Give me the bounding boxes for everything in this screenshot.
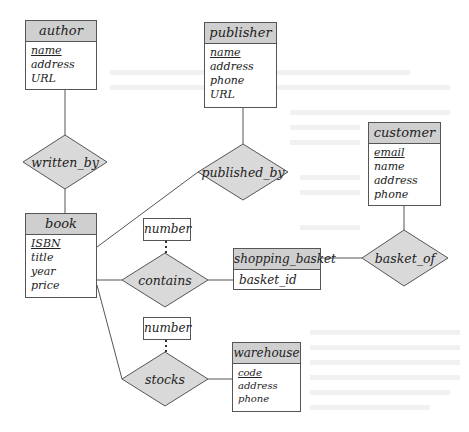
attribute-book-title: title bbox=[31, 251, 92, 265]
attribute-publisher-phone: phone bbox=[210, 74, 272, 88]
entity-customer: customer email name address phone bbox=[368, 122, 441, 206]
entity-book: book ISBN title year price bbox=[25, 213, 97, 298]
attribute-author-address: address bbox=[31, 58, 92, 72]
attribute-author-url: URL bbox=[31, 72, 92, 86]
attribute-publisher-address: address bbox=[210, 60, 272, 74]
entity-shopping-basket: shopping_basket basket_id bbox=[233, 248, 321, 290]
attribute-warehouse-code: code bbox=[238, 366, 296, 379]
entity-author: author name address URL bbox=[25, 20, 97, 90]
relationship-label-written_by: written_by bbox=[31, 155, 98, 170]
attribute-warehouse-phone: phone bbox=[238, 392, 296, 405]
entity-publisher: publisher name address phone URL bbox=[204, 22, 277, 108]
relationship-label-published_by: published_by bbox=[201, 165, 284, 180]
relationship-attribute-number-contains: number bbox=[143, 218, 191, 241]
attribute-customer-address: address bbox=[374, 174, 436, 188]
entity-header-publisher: publisher bbox=[205, 23, 276, 44]
attribute-customer-email: email bbox=[374, 146, 436, 160]
attribute-book-price: price bbox=[31, 279, 92, 293]
entity-header-customer: customer bbox=[369, 123, 440, 144]
attribute-book-year: year bbox=[31, 265, 92, 279]
attribute-customer-phone: phone bbox=[374, 188, 436, 202]
relationship-label-stocks: stocks bbox=[145, 372, 185, 387]
attribute-publisher-name: name bbox=[210, 46, 272, 60]
relationship-label-contains: contains bbox=[138, 273, 192, 288]
entity-header-warehouse: warehouse bbox=[233, 343, 300, 364]
attribute-book-isbn: ISBN bbox=[31, 237, 92, 251]
attribute-publisher-url: URL bbox=[210, 88, 272, 102]
entity-header-author: author bbox=[26, 21, 96, 42]
entity-header-shopping-basket: shopping_basket bbox=[234, 249, 320, 270]
attribute-warehouse-address: address bbox=[238, 379, 296, 392]
attribute-shopping-basket-basket-id: basket_id bbox=[239, 273, 316, 287]
relationship-attribute-number-stocks: number bbox=[143, 317, 191, 340]
entity-header-book: book bbox=[26, 214, 96, 235]
connector-book-stocks bbox=[97, 285, 122, 379]
entity-warehouse: warehouse code address phone bbox=[232, 342, 301, 412]
attribute-author-name: name bbox=[31, 44, 92, 58]
relationship-label-basket_of: basket_of bbox=[375, 251, 435, 266]
attribute-customer-name: name bbox=[374, 160, 436, 174]
